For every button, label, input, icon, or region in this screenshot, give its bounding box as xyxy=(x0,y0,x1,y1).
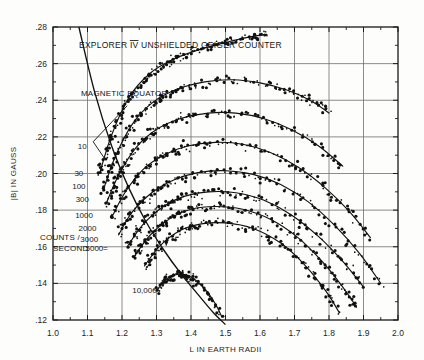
data-point xyxy=(237,228,240,231)
data-point xyxy=(211,299,214,302)
data-point xyxy=(148,104,150,106)
data-point xyxy=(156,224,159,227)
data-point xyxy=(182,58,184,60)
data-point xyxy=(179,234,181,236)
data-point xyxy=(186,143,189,146)
data-point xyxy=(337,286,340,289)
data-point xyxy=(211,170,213,172)
data-point xyxy=(329,199,332,202)
y-tick-label: .16 xyxy=(35,242,47,252)
data-point xyxy=(278,88,281,91)
data-point xyxy=(241,211,244,214)
data-point xyxy=(195,227,197,229)
data-point xyxy=(298,226,301,229)
data-point xyxy=(330,249,332,251)
data-point xyxy=(248,112,250,114)
data-point xyxy=(157,127,159,129)
data-point xyxy=(143,240,146,243)
data-point xyxy=(264,179,266,181)
data-point xyxy=(195,114,197,116)
data-point xyxy=(217,217,219,219)
data-point xyxy=(182,139,185,142)
data-point xyxy=(154,229,157,232)
data-point xyxy=(383,286,385,288)
data-point xyxy=(315,251,318,254)
data-point xyxy=(263,149,266,152)
data-point xyxy=(201,86,204,89)
data-point xyxy=(153,252,156,255)
data-point xyxy=(379,278,381,280)
data-point xyxy=(146,164,148,166)
data-point xyxy=(112,181,115,184)
data-point xyxy=(121,233,123,235)
data-point xyxy=(281,222,283,224)
data-point xyxy=(157,205,160,208)
data-point xyxy=(313,271,315,273)
data-point xyxy=(181,147,183,149)
legend-equals-sign: = xyxy=(103,244,108,253)
data-point xyxy=(173,234,175,236)
data-point xyxy=(299,221,302,224)
data-point xyxy=(310,178,312,180)
data-point xyxy=(185,121,188,124)
data-point xyxy=(254,178,256,180)
legend-counts-line2: SECOND xyxy=(53,244,88,253)
data-point xyxy=(275,88,277,90)
data-point xyxy=(276,224,279,227)
data-point xyxy=(155,248,157,250)
data-point xyxy=(196,194,198,196)
data-point xyxy=(181,86,184,89)
data-point xyxy=(276,207,278,209)
data-point xyxy=(162,152,164,154)
y-tick-label: .12 xyxy=(35,315,47,325)
data-point xyxy=(200,79,203,82)
data-point xyxy=(358,281,361,284)
data-point xyxy=(133,129,136,132)
data-point xyxy=(145,268,147,270)
data-point xyxy=(168,237,170,239)
data-point xyxy=(347,239,350,242)
data-point xyxy=(110,215,113,218)
data-point xyxy=(116,177,119,180)
data-point xyxy=(154,156,157,159)
data-point xyxy=(116,120,118,122)
data-point xyxy=(161,208,163,210)
data-point xyxy=(291,164,294,167)
data-point xyxy=(192,113,194,115)
data-point xyxy=(306,175,309,178)
data-point xyxy=(171,91,174,94)
data-point xyxy=(170,54,172,56)
data-point xyxy=(166,60,169,63)
data-point xyxy=(108,164,111,167)
data-point xyxy=(181,195,183,197)
data-point xyxy=(244,230,247,233)
data-point xyxy=(339,201,342,204)
y-tick-label: .20 xyxy=(35,169,47,179)
data-point xyxy=(182,179,184,181)
data-point xyxy=(293,191,295,193)
data-point xyxy=(134,208,136,210)
data-point xyxy=(157,292,160,295)
data-point xyxy=(193,176,196,179)
data-point xyxy=(141,250,143,252)
data-point xyxy=(237,83,239,85)
data-point xyxy=(186,213,188,215)
data-point xyxy=(326,288,329,291)
data-point xyxy=(261,235,263,237)
data-point xyxy=(128,128,131,131)
data-point xyxy=(271,121,274,124)
data-point xyxy=(219,79,221,81)
data-point xyxy=(321,154,324,157)
data-point xyxy=(170,183,172,185)
data-point xyxy=(195,280,197,282)
data-point xyxy=(191,190,194,193)
data-point xyxy=(280,155,283,158)
data-point xyxy=(214,171,217,174)
data-point xyxy=(127,133,129,135)
data-point xyxy=(173,215,176,218)
data-point xyxy=(165,222,168,225)
data-point xyxy=(160,286,162,288)
data-point xyxy=(176,119,178,121)
data-point xyxy=(107,201,109,203)
data-point xyxy=(354,251,356,253)
